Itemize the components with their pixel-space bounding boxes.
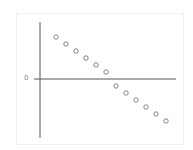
data-point (54, 35, 58, 39)
data-point (154, 112, 158, 116)
data-point (164, 119, 168, 123)
data-point (84, 56, 88, 60)
data-point (74, 49, 78, 53)
data-point (104, 70, 108, 74)
data-point (134, 98, 138, 102)
data-point (114, 84, 118, 88)
data-point (64, 42, 68, 46)
data-point (94, 63, 98, 67)
data-point (124, 91, 128, 95)
scatter-plot (0, 0, 193, 150)
data-point (144, 105, 148, 109)
